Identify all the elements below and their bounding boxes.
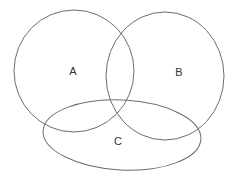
venn-diagram: A B C <box>0 0 234 178</box>
set-a-label: A <box>69 65 77 77</box>
set-c-label: C <box>114 135 122 147</box>
set-b-label: B <box>175 66 182 78</box>
set-b-circle <box>106 12 224 140</box>
